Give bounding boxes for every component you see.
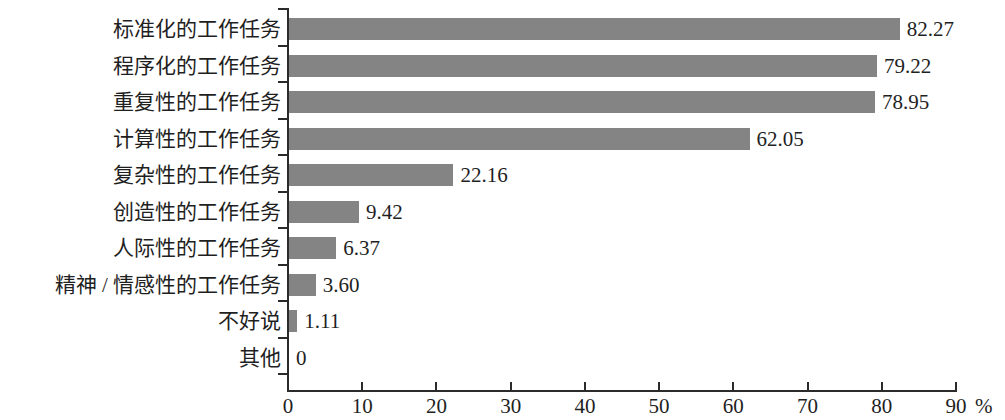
y-axis-tick — [278, 118, 287, 120]
x-axis-tick — [584, 382, 586, 391]
bar-value-label: 22.16 — [460, 164, 507, 186]
bar-value-label: 3.60 — [323, 274, 360, 296]
bar-value-label: 78.95 — [882, 91, 929, 113]
category-label: 不好说 — [0, 311, 281, 332]
x-axis-tick-label: 80 — [871, 396, 892, 417]
x-axis-tick-label: 30 — [500, 396, 521, 417]
y-axis-tick — [278, 227, 287, 229]
category-label: 其他 — [0, 348, 281, 369]
y-axis-tick — [278, 45, 287, 47]
bar-value-label: 6.37 — [343, 237, 380, 259]
x-axis-tick-label: 70 — [797, 396, 818, 417]
x-axis-tick — [287, 382, 289, 391]
x-axis-tick — [732, 382, 734, 391]
y-axis-tick — [278, 154, 287, 156]
bar — [289, 201, 359, 223]
category-label: 创造性的工作任务 — [0, 202, 281, 223]
x-axis-line — [287, 390, 957, 392]
bar — [289, 274, 316, 296]
x-axis-unit-label: % — [975, 396, 993, 417]
x-axis-tick-label: 50 — [649, 396, 670, 417]
y-axis-tick — [278, 81, 287, 83]
y-axis-tick — [278, 373, 287, 375]
bar-value-label: 62.05 — [757, 128, 804, 150]
category-label: 标准化的工作任务 — [0, 19, 281, 40]
x-axis-tick — [510, 382, 512, 391]
category-label: 复杂性的工作任务 — [0, 165, 281, 186]
x-axis-tick-label: 60 — [723, 396, 744, 417]
x-axis-tick-label: 40 — [574, 396, 595, 417]
category-label: 人际性的工作任务 — [0, 238, 281, 259]
bar-chart: 标准化的工作任务82.27程序化的工作任务79.22重复性的工作任务78.95计… — [0, 0, 1005, 420]
category-label: 精神 / 情感性的工作任务 — [0, 275, 281, 296]
bar — [289, 310, 297, 332]
category-label: 程序化的工作任务 — [0, 56, 281, 77]
bar-value-label: 1.11 — [304, 310, 340, 332]
category-label: 计算性的工作任务 — [0, 129, 281, 150]
x-axis-tick-label: 10 — [352, 396, 373, 417]
bar-value-label: 0 — [296, 347, 307, 369]
bar — [289, 237, 336, 259]
bar-value-label: 79.22 — [884, 55, 931, 77]
x-axis-tick — [361, 382, 363, 391]
bar — [289, 128, 750, 150]
x-axis-tick-label: 20 — [426, 396, 447, 417]
bar-value-label: 82.27 — [907, 18, 954, 40]
x-axis-tick-label: 0 — [283, 396, 294, 417]
x-axis-tick — [658, 382, 660, 391]
y-axis-tick — [278, 191, 287, 193]
x-axis-tick — [955, 382, 957, 391]
x-axis-tick — [807, 382, 809, 391]
x-axis-tick — [435, 382, 437, 391]
category-label: 重复性的工作任务 — [0, 92, 281, 113]
bar — [289, 91, 875, 113]
bar — [289, 18, 900, 40]
y-axis-tick — [278, 264, 287, 266]
y-axis-tick — [278, 337, 287, 339]
y-axis-tick — [278, 8, 287, 10]
y-axis-tick — [278, 300, 287, 302]
x-axis-tick-label: 90 — [946, 396, 967, 417]
bar — [289, 55, 877, 77]
bar — [289, 164, 453, 186]
bar-value-label: 9.42 — [366, 201, 403, 223]
x-axis-tick — [881, 382, 883, 391]
